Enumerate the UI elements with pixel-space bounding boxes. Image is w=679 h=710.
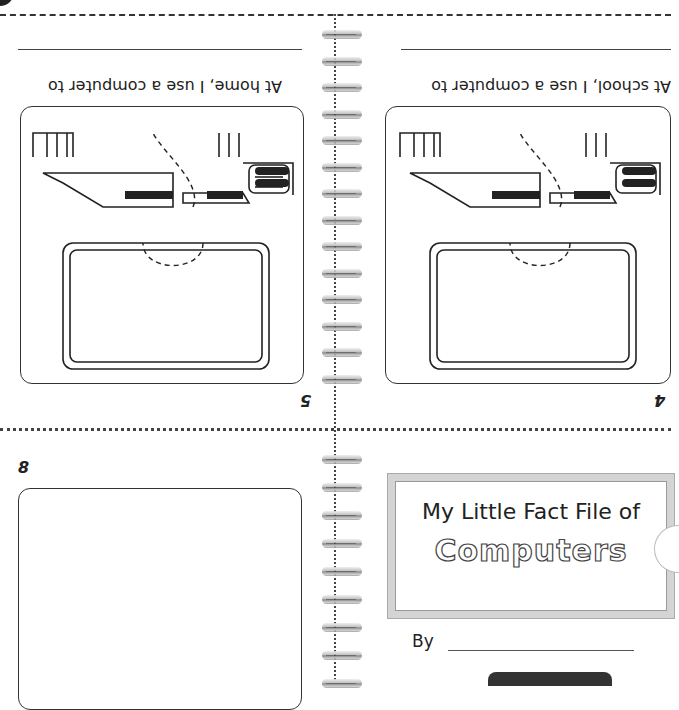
- spiral-binding-ring-icon: [322, 455, 362, 464]
- page-number: 5: [300, 391, 311, 410]
- spiral-binding-ring-icon: [322, 539, 362, 548]
- spiral-binding-ring-icon: [322, 269, 362, 278]
- spiral-binding-ring-icon: [322, 189, 362, 198]
- spiral-binding-ring-icon: [322, 679, 362, 688]
- spiral-binding-ring-icon: [322, 651, 362, 660]
- spiral-binding-ring-icon: [322, 295, 362, 304]
- spiral-binding-ring-icon: [322, 216, 362, 225]
- cover-title-box: My Little Fact File of Computers: [388, 474, 674, 618]
- drawing-frame-back: [18, 488, 302, 710]
- by-label: By: [412, 631, 434, 651]
- spiral-binding-ring-icon: [322, 595, 362, 604]
- spiral-binding-ring-icon: [322, 623, 362, 632]
- spiral-binding-ring-icon: [322, 242, 362, 251]
- page-number-8: 8: [18, 458, 29, 477]
- drawing-frame: [385, 106, 671, 384]
- corner-mark: [0, 0, 14, 6]
- panel-school: 4 At scho: [364, 18, 671, 418]
- answer-line[interactable]: [401, 49, 671, 50]
- drawing-frame: [20, 106, 304, 384]
- spiral-binding-ring-icon: [322, 83, 362, 92]
- answer-line[interactable]: [18, 49, 302, 50]
- author-name-line[interactable]: [448, 650, 634, 651]
- spiral-binding-ring-icon: [322, 375, 362, 384]
- spiral-binding-ring-icon: [322, 483, 362, 492]
- spiral-binding-ring-icon: [322, 110, 362, 119]
- spiral-binding-ring-icon: [322, 348, 362, 357]
- spiral-binding-ring-icon: [322, 567, 362, 576]
- spiral-binding-ring-icon: [322, 136, 362, 145]
- page-number: 4: [654, 391, 665, 410]
- computer-desktop-icon: [386, 107, 670, 383]
- spiral-binding-ring-icon: [322, 511, 362, 520]
- cover-title-line1: My Little Fact File of: [395, 499, 667, 524]
- panel-home: 5: [0, 18, 322, 418]
- cover-dark-tab: [488, 672, 612, 686]
- prompt-text: At home, I use a computer to: [48, 77, 282, 96]
- computer-desktop-icon: [21, 107, 303, 383]
- spiral-binding-ring-icon: [322, 30, 362, 39]
- spiral-binding-ring-icon: [322, 322, 362, 331]
- prompt-text: At school, I use a computer to: [431, 77, 671, 96]
- spiral-binding-ring-icon: [322, 163, 362, 172]
- spiral-binding-ring-icon: [322, 57, 362, 66]
- cover-title-line2: Computers: [395, 533, 667, 568]
